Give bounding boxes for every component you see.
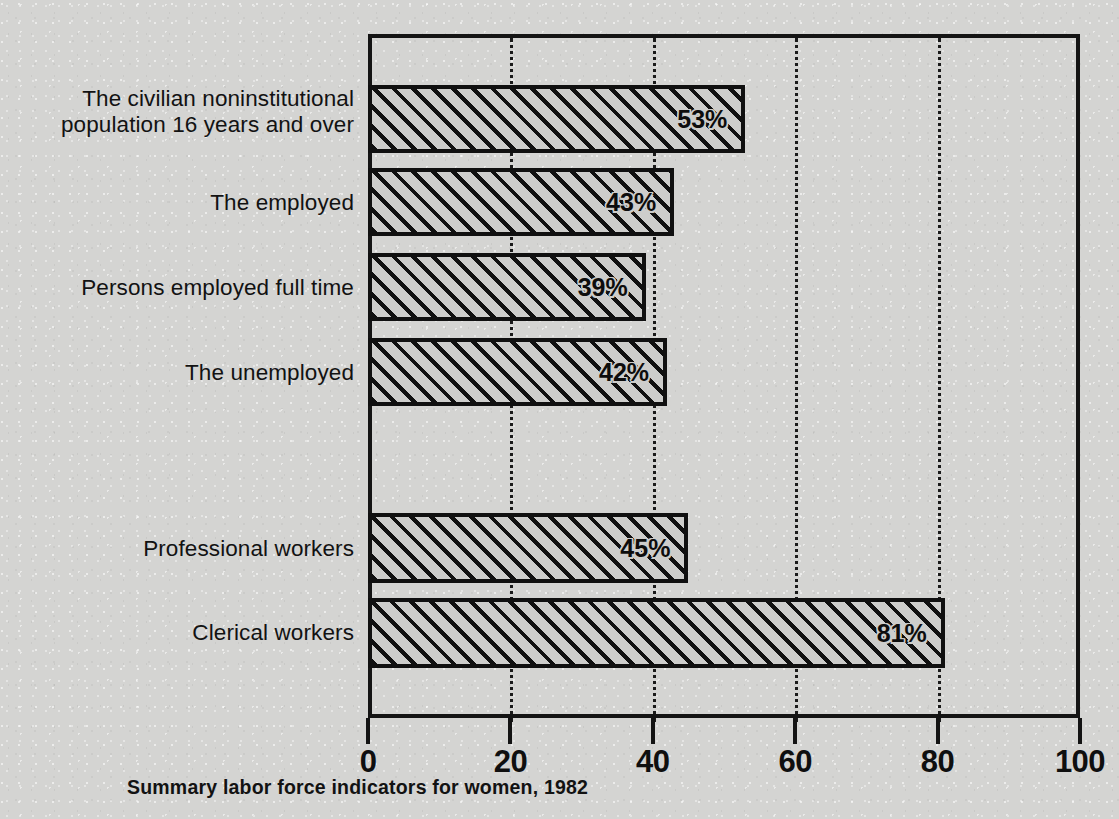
category-label: The unemployed (185, 360, 354, 386)
bar: 43% (368, 168, 674, 236)
tick-label-20: 20 (494, 744, 527, 780)
tick-mark-100 (1078, 718, 1082, 744)
bar-value-label: 43% (604, 187, 658, 218)
tick-mark-40 (651, 718, 655, 744)
bar: 53% (368, 85, 745, 153)
bar: 42% (368, 338, 667, 406)
chart-page: 53%43%39%42%45%81% The civilian noninsti… (0, 0, 1119, 819)
bar-value-label: 81% (875, 618, 929, 649)
category-label: The employed (210, 190, 354, 216)
chart-caption: Summary labor force indicators for women… (127, 776, 588, 799)
bar: 81% (368, 598, 945, 668)
category-label: Professional workers (143, 536, 354, 562)
bar: 45% (368, 513, 688, 583)
bar-value-label: 45% (618, 533, 672, 564)
category-label: Persons employed full time (81, 275, 354, 301)
category-label: The civilian noninstitutional population… (61, 86, 354, 138)
tick-mark-0 (366, 718, 370, 744)
tick-label-40: 40 (636, 744, 669, 780)
bar-value-label: 53% (675, 104, 729, 135)
bar-value-label: 39% (576, 272, 630, 303)
tick-label-80: 80 (921, 744, 954, 780)
tick-label-60: 60 (778, 744, 811, 780)
tick-mark-80 (936, 718, 940, 744)
tick-mark-60 (793, 718, 797, 744)
bar-value-label: 42% (597, 357, 651, 388)
tick-label-100: 100 (1055, 744, 1105, 780)
tick-label-0: 0 (360, 744, 377, 780)
category-label: Clerical workers (192, 620, 354, 646)
tick-mark-20 (508, 718, 512, 744)
bar: 39% (368, 253, 646, 321)
